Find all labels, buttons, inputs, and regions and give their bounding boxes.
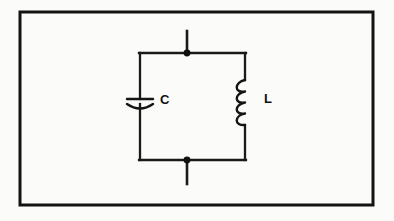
inductor-label: L [264, 91, 272, 106]
inductor-coil [237, 80, 245, 125]
outer-border-rect [20, 12, 373, 205]
figure-canvas: C L [0, 0, 394, 221]
bottom-junction-dot [184, 157, 191, 164]
lc-tank-circuit-diagram: C L [0, 0, 394, 221]
capacitor-label: C [160, 92, 170, 107]
top-junction-dot [184, 50, 191, 57]
